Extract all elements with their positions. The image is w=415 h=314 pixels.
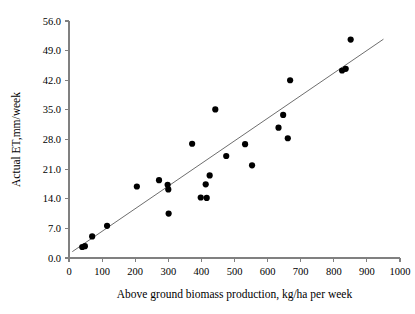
data-point	[275, 125, 281, 131]
data-point	[348, 37, 354, 43]
x-axis-tick-label: 400	[194, 266, 210, 277]
data-point	[207, 172, 213, 178]
x-axis-tick-label: 500	[227, 266, 243, 277]
y-axis-tick-label: 14.0	[43, 193, 61, 204]
x-axis-tick-label: 1000	[390, 266, 411, 277]
x-axis-tick-label: 200	[127, 266, 143, 277]
y-axis-tick-label: 35.0	[43, 104, 61, 115]
data-point	[343, 66, 349, 72]
data-point	[203, 181, 209, 187]
x-axis-tick-label: 300	[160, 266, 176, 277]
y-axis-tick-label: 42.0	[43, 75, 61, 86]
data-point	[223, 153, 229, 159]
x-axis-title: Above ground biomass production, kg/ha p…	[117, 288, 353, 301]
plot-area: 0.07.014.021.028.035.042.049.056.0010020…	[0, 0, 415, 314]
trend-line	[72, 39, 383, 251]
data-point	[280, 112, 286, 118]
x-axis-tick-label: 100	[94, 266, 110, 277]
data-point	[198, 194, 204, 200]
y-axis-tick-label: 21.0	[43, 164, 61, 175]
data-point	[287, 77, 293, 83]
y-axis-tick-label: 7.0	[48, 223, 61, 234]
data-point	[189, 141, 195, 147]
x-axis-tick-label: 800	[326, 266, 342, 277]
data-point	[285, 135, 291, 141]
x-axis-tick-label: 600	[260, 266, 276, 277]
x-axis-tick-label: 900	[359, 266, 375, 277]
data-point	[166, 210, 172, 216]
y-axis-tick-label: 56.0	[43, 16, 61, 27]
data-point	[104, 223, 110, 229]
data-point	[249, 162, 255, 168]
data-point	[204, 195, 210, 201]
data-point	[212, 106, 218, 112]
data-point	[134, 183, 140, 189]
data-point	[82, 243, 88, 249]
scatter-chart-figure: 0.07.014.021.028.035.042.049.056.0010020…	[0, 0, 415, 314]
y-axis-tick-label: 0.0	[48, 253, 61, 264]
data-point	[165, 186, 171, 192]
data-point	[156, 177, 162, 183]
y-axis-title: Actual ET,mm/week	[10, 92, 23, 187]
data-point	[89, 233, 95, 239]
data-point	[242, 141, 248, 147]
x-axis-tick-label: 0	[66, 266, 71, 277]
x-axis-tick-label: 700	[293, 266, 309, 277]
y-axis-tick-label: 49.0	[43, 45, 61, 56]
y-axis-tick-label: 28.0	[43, 134, 61, 145]
